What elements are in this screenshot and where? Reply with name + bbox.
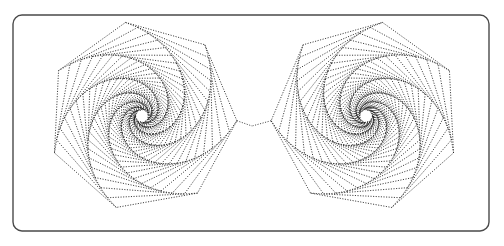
spiral-ray-15-2 <box>127 144 130 148</box>
spiral-ray-5-0 <box>172 55 177 63</box>
center-join-segment-1 <box>252 121 271 126</box>
spiral-ray-35-3 <box>357 116 358 117</box>
spiral-ray-0-5 <box>271 121 279 132</box>
figure-root <box>0 0 504 246</box>
spiral-ray-13-2 <box>133 151 137 154</box>
spiral-ray-6-3 <box>127 173 134 179</box>
spiral-ray-2-5 <box>60 118 65 128</box>
spiral-ray-11-6 <box>156 73 160 78</box>
spiral-ray-10-1 <box>181 135 186 139</box>
spiral-ray-37-5 <box>365 108 366 109</box>
spiral-ray-1-4 <box>324 193 336 194</box>
spiral-ray-25-0 <box>143 132 145 133</box>
spiral-polygon-12 <box>101 78 183 158</box>
spiral-ray-9-3 <box>114 155 117 161</box>
spiral-ray-31-0 <box>135 124 136 125</box>
spiral-ray-34-4 <box>361 108 362 109</box>
spiral-ray-8-0 <box>183 79 184 86</box>
right-spiral-group <box>271 22 453 207</box>
spiral-ray-4-3 <box>142 184 151 188</box>
spiral-ray-35-4 <box>150 116 151 117</box>
spiral-ray-3-4 <box>347 188 357 191</box>
spiral-ray-30-0 <box>136 126 137 127</box>
spiral-ray-38-4 <box>148 118 149 119</box>
spiral-ray-13-4 <box>105 100 109 103</box>
spiral-ray-36-4 <box>149 117 150 118</box>
spiral-ray-2-0 <box>148 33 157 40</box>
spiral-ray-37-6 <box>138 122 139 123</box>
spiral-polygon-3 <box>296 40 444 191</box>
spiral-ray-8-3 <box>117 161 121 167</box>
spiral-ray-11-0 <box>324 100 325 106</box>
spiral-ray-12-0 <box>325 106 327 111</box>
spiral-ray-14-5 <box>134 80 139 82</box>
spiral-ray-14-5 <box>375 148 379 152</box>
spiral-ray-30-1 <box>130 117 131 119</box>
spiral-polygon-7 <box>307 58 420 173</box>
spiral-ray-2-5 <box>287 141 296 148</box>
spiral-ray-12-5 <box>123 79 129 80</box>
spiral-ray-1-1 <box>427 60 438 65</box>
spiral-ray-3-3 <box>413 168 417 178</box>
spiral-ray-20-0 <box>156 133 159 134</box>
spiral-ray-6-1 <box>201 110 205 118</box>
spiral-ray-36-1 <box>368 123 369 124</box>
spiral-ray-11-3 <box>407 107 411 112</box>
spiral-ray-32-6 <box>143 126 144 127</box>
spiral-ray-0-4 <box>107 198 116 208</box>
spiral-ray-0-1 <box>438 64 449 70</box>
spiral-ray-3-5 <box>65 109 70 118</box>
spiral-polygon-9 <box>91 65 191 164</box>
spiral-ray-30-2 <box>132 108 134 109</box>
spiral-ray-1-0 <box>138 27 149 33</box>
spiral-polygon-2 <box>60 33 221 193</box>
spiral-ray-37-3 <box>359 118 360 119</box>
spiral-polygon-18 <box>340 89 394 143</box>
spiral-ray-32-2 <box>357 121 358 122</box>
spiral-ray-36-6 <box>372 111 373 112</box>
spiral-ray-8-6 <box>312 125 317 131</box>
spiral-ray-35-1 <box>134 112 135 113</box>
spiral-ray-13-1 <box>164 144 169 145</box>
spiral-polygon-9 <box>317 65 417 164</box>
spiral-ray-12-3 <box>403 103 407 107</box>
spiral-ray-35-6 <box>140 124 141 125</box>
spiral-ray-0-6 <box>59 64 70 70</box>
spiral-ray-10-5 <box>353 160 359 162</box>
spiral-polygon-15 <box>332 82 398 148</box>
spiral-ray-7-3 <box>121 167 127 173</box>
spiral-ray-3-0 <box>158 40 166 47</box>
spiral-ray-7-5 <box>331 163 339 164</box>
spiral-ray-1-0 <box>360 27 371 33</box>
spiral-ray-37-4 <box>149 118 150 119</box>
spiral-ray-11-0 <box>183 100 184 106</box>
spiral-ray-4-2 <box>195 154 204 158</box>
spiral-ray-36-1 <box>135 111 136 112</box>
spiral-ray-10-6 <box>151 69 156 73</box>
spiral-ray-11-5 <box>360 158 366 161</box>
spiral-ray-38-2 <box>143 109 144 110</box>
spiral-ray-7-2 <box>169 163 177 164</box>
center-join-segment-0 <box>237 121 252 126</box>
spiral-ray-38-5 <box>364 109 365 110</box>
spiral-ray-9-4 <box>91 118 94 125</box>
spiral-ray-7-6 <box>131 58 139 61</box>
spiral-polygon-3 <box>65 40 213 191</box>
spiral-ray-0-1 <box>205 45 209 58</box>
spiral-ray-8-3 <box>417 124 419 131</box>
spiral-ray-8-1 <box>191 125 196 131</box>
spiral-polygon-18 <box>114 89 168 143</box>
spiral-polygon-8 <box>89 61 196 167</box>
spiral-ray-2-2 <box>443 118 448 128</box>
spiral-polygon-7 <box>88 58 201 173</box>
spiral-ray-6-2 <box>418 89 425 94</box>
spiral-ray-3-5 <box>296 148 305 154</box>
spiral-ray-17-5 <box>147 87 150 90</box>
frame-border <box>13 15 489 231</box>
spiral-ray-1-5 <box>57 128 60 140</box>
spiral-ray-11-1 <box>348 73 352 78</box>
spiral-ray-13-5 <box>129 79 134 80</box>
spiral-ray-7-2 <box>411 85 418 89</box>
spiral-ray-10-3 <box>411 112 414 118</box>
spiral-ray-2-0 <box>350 33 359 40</box>
